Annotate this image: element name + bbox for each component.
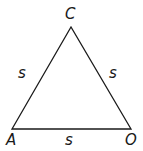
side-label-ca: s bbox=[18, 64, 26, 82]
vertex-label-c: C bbox=[65, 5, 76, 23]
vertex-label-o: O bbox=[125, 131, 137, 149]
vertex-label-a: A bbox=[5, 131, 16, 149]
triangle-diagram: C A O s s s bbox=[0, 0, 143, 151]
side-label-ao: s bbox=[65, 131, 73, 149]
side-label-co: s bbox=[109, 64, 117, 82]
